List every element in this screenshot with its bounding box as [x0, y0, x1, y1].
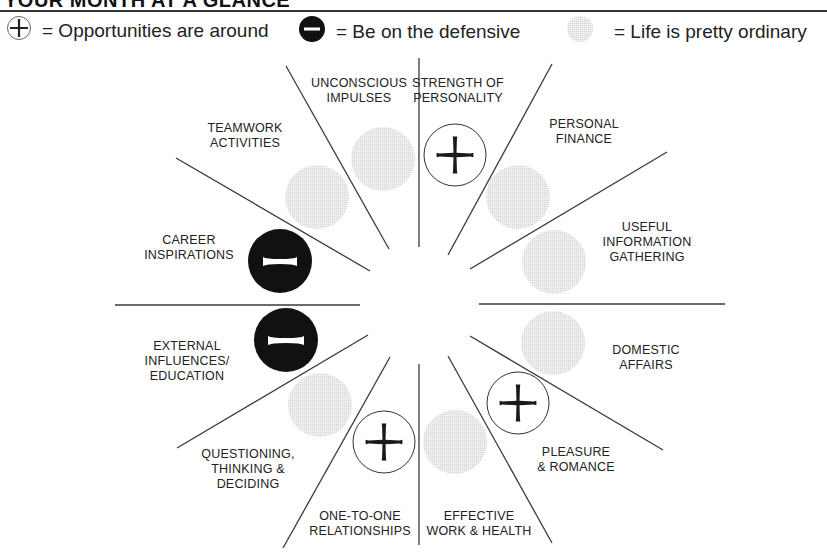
label-personal-finance: PERSONAL FINANCE: [549, 117, 619, 147]
label-questioning-thinking-deciding: QUESTIONING, THINKING & DECIDING: [201, 447, 294, 492]
label-strength-of-personality: STRENGTH OF PERSONALITY: [412, 76, 504, 106]
label-unconscious-impulses: UNCONSCIOUS IMPULSES: [311, 76, 407, 106]
neutral-marker-unconscious-impulses: [351, 127, 415, 191]
neutral-marker-domestic-affairs: [521, 311, 585, 375]
negative-marker-career-inspirations: [248, 229, 312, 293]
label-one-to-one-relationships: ONE-TO-ONE RELATIONSHIPS: [309, 509, 411, 539]
negative-markers: [248, 229, 318, 372]
label-career-inspirations: CAREER INSPIRATIONS: [144, 233, 234, 263]
label-external-influences-education: EXTERNAL INFLUENCES/ EDUCATION: [145, 339, 230, 384]
negative-marker-external-influences: [254, 308, 318, 372]
positive-marker-pleasure-romance: [487, 372, 549, 434]
label-effective-work-health: EFFECTIVE WORK & HEALTH: [426, 509, 531, 539]
neutral-marker-personal-finance: [486, 165, 550, 229]
neutral-marker-questioning: [288, 373, 352, 437]
label-useful-information-gathering: USEFUL INFORMATION GATHERING: [603, 220, 692, 265]
positive-marker-one-to-one: [353, 411, 415, 473]
label-teamwork-activities: TEAMWORK ACTIVITIES: [207, 121, 282, 151]
label-pleasure-romance: PLEASURE & ROMANCE: [537, 445, 615, 475]
neutral-marker-effective-work: [423, 410, 487, 474]
positive-marker-strength-of-personality: [424, 124, 486, 186]
label-domestic-affairs: DOMESTIC AFFAIRS: [612, 343, 680, 373]
neutral-marker-useful-information: [522, 230, 586, 294]
neutral-marker-teamwork-activities: [285, 165, 349, 229]
